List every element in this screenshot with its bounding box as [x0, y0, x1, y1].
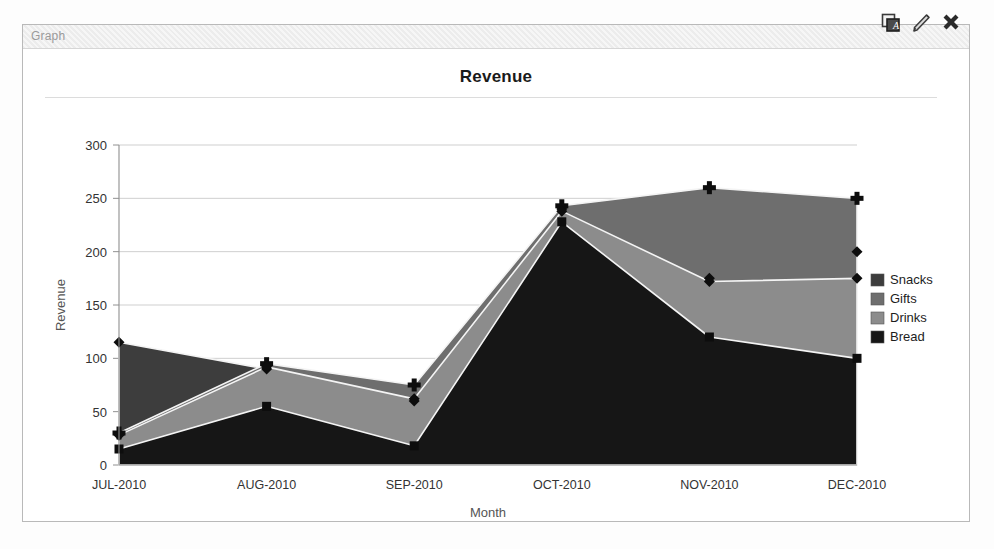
data-point-marker — [853, 354, 862, 363]
legend-swatch — [871, 331, 884, 343]
x-tick-label: OCT-2010 — [533, 478, 591, 492]
edit-pencil-icon[interactable] — [909, 11, 933, 35]
legend-label: Drinks — [890, 310, 927, 325]
close-icon[interactable] — [939, 11, 963, 35]
x-tick-label: NOV-2010 — [680, 478, 738, 492]
legend-label: Gifts — [890, 291, 917, 306]
y-axis-title: Revenue — [53, 279, 68, 331]
window-titlebar: Graph A — [23, 25, 969, 49]
x-tick-label: DEC-2010 — [828, 478, 886, 492]
data-point-marker — [705, 333, 714, 342]
legend-swatch — [871, 312, 884, 324]
legend-swatch — [871, 274, 884, 286]
y-tick-label: 200 — [85, 245, 107, 260]
y-tick-label: 250 — [85, 191, 107, 206]
titlebar-actions: A — [879, 11, 963, 35]
screen-root: Graph A Revenue 050100150 — [0, 0, 994, 549]
data-point-marker — [262, 402, 271, 411]
legend-label: Bread — [890, 329, 925, 344]
y-tick-label: 100 — [85, 351, 107, 366]
y-tick-label: 150 — [85, 298, 107, 313]
window-title: Graph — [31, 29, 65, 43]
y-tick-label: 0 — [100, 458, 107, 473]
revenue-area-chart: 050100150200250300JUL-2010AUG-2010SEP-20… — [23, 49, 971, 521]
x-tick-label: SEP-2010 — [386, 478, 443, 492]
data-point-marker — [557, 217, 566, 226]
y-tick-label: 50 — [93, 405, 107, 420]
svg-text:A: A — [892, 20, 900, 31]
y-tick-label: 300 — [85, 138, 107, 153]
x-tick-label: AUG-2010 — [237, 478, 296, 492]
chart-area: Revenue 050100150200250300JUL-2010AUG-20… — [23, 49, 969, 521]
x-axis-title: Month — [470, 505, 506, 520]
legend-label: Snacks — [890, 272, 933, 287]
x-tick-label: JUL-2010 — [92, 478, 146, 492]
data-point-marker — [410, 441, 419, 450]
graph-window: Graph A Revenue 050100150 — [22, 24, 970, 522]
legend-swatch — [871, 293, 884, 305]
duplicate-icon[interactable]: A — [879, 11, 903, 35]
